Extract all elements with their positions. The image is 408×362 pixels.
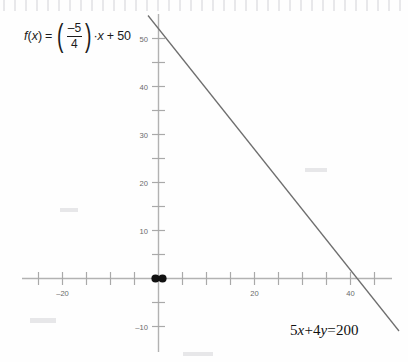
fraction-numerator: –5	[66, 22, 83, 34]
x-tick-label: 40	[346, 289, 354, 298]
formula-close-paren: )	[38, 30, 42, 43]
function-formula-label: f(x) = ( –5 4 ) ·x + 50	[24, 22, 131, 50]
x-tick-label: 20	[250, 289, 258, 298]
y-tick-label: 50	[140, 35, 148, 44]
formula-big-rparen: )	[85, 23, 91, 49]
y-tick-label: 10	[140, 227, 148, 236]
formula-var: x	[98, 30, 104, 43]
formula-fraction: –5 4	[66, 22, 83, 50]
formula-plus: +	[107, 30, 114, 43]
equation-plus: +	[304, 322, 313, 338]
y-tick-label: 30	[140, 131, 148, 140]
y-tick-label: 20	[140, 179, 148, 188]
formula-equals: =	[45, 30, 52, 43]
equation-coeff-b: 4	[313, 322, 321, 338]
origin-point-b	[158, 274, 166, 282]
equation-coeff-a: 5	[290, 322, 298, 338]
equation-constant: 200	[336, 322, 359, 338]
formula-intercept: 50	[117, 30, 131, 43]
fraction-denominator: 4	[69, 38, 80, 50]
graph-figure: –20 20 40 50 40 30 20 10 –10 f(x) = ( –5…	[0, 0, 408, 362]
y-tick-label: –10	[135, 323, 148, 332]
origin-point-a	[151, 274, 159, 282]
function-line	[148, 16, 399, 332]
coordinate-plane: –20 20 40 50 40 30 20 10 –10	[0, 0, 408, 362]
x-tick-label: –20	[56, 289, 69, 298]
standard-form-equation-label: 5x+4y=200	[290, 322, 359, 339]
y-tick-label: 40	[140, 83, 148, 92]
formula-big-lparen: (	[57, 23, 63, 49]
equation-equals: =	[327, 322, 336, 338]
